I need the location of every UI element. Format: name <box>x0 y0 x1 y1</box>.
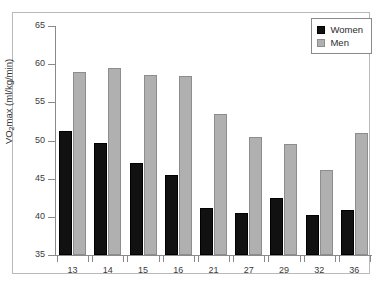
x-axis-line <box>55 255 372 256</box>
y-tick-label-65: 65 <box>5 21 45 30</box>
y-tick-45 <box>48 179 55 180</box>
x-tick-right-21 <box>229 256 230 262</box>
x-tick-left-29 <box>268 256 269 262</box>
x-tick-label-16: 16 <box>163 266 193 275</box>
legend-label-men: Men <box>330 38 348 48</box>
x-tick-left-21 <box>198 256 199 262</box>
bar-women-13 <box>59 131 72 255</box>
bar-women-15 <box>130 163 143 255</box>
bar-women-14 <box>94 143 107 255</box>
x-tick-label-21: 21 <box>199 266 229 275</box>
x-tick-right-36 <box>370 256 371 262</box>
bar-men-16 <box>179 76 192 255</box>
x-tick-left-32 <box>304 256 305 262</box>
chart-figure: VO2max (ml/kg/min) 35404550556065 131415… <box>0 0 386 294</box>
x-tick-label-27: 27 <box>234 266 264 275</box>
x-tick-left-14 <box>92 256 93 262</box>
bar-women-27 <box>235 213 248 255</box>
x-tick-right-32 <box>335 256 336 262</box>
y-axis-title-post: max (ml/kg/min) <box>3 59 14 127</box>
bar-women-29 <box>270 198 283 255</box>
y-tick-55 <box>48 102 55 103</box>
y-tick-65 <box>48 26 55 27</box>
x-tick-right-15 <box>159 256 160 262</box>
bar-women-36 <box>341 210 354 255</box>
bar-men-32 <box>320 170 333 255</box>
y-tick-label-60: 60 <box>5 59 45 68</box>
x-tick-label-15: 15 <box>128 266 158 275</box>
bar-men-13 <box>73 72 86 255</box>
y-axis-title-subscript: 2 <box>8 126 15 130</box>
y-tick-60 <box>48 64 55 65</box>
bar-women-21 <box>200 208 213 255</box>
legend-label-women: Women <box>330 25 363 35</box>
legend-swatch-women-icon <box>317 26 325 34</box>
x-tick-label-14: 14 <box>93 266 123 275</box>
y-tick-label-45: 45 <box>5 174 45 183</box>
x-tick-left-13 <box>57 256 58 262</box>
y-tick-label-55: 55 <box>5 97 45 106</box>
x-tick-right-13 <box>88 256 89 262</box>
bar-women-32 <box>306 215 319 255</box>
y-tick-label-50: 50 <box>5 136 45 145</box>
x-tick-right-16 <box>194 256 195 262</box>
bar-men-14 <box>108 68 121 255</box>
x-tick-label-13: 13 <box>58 266 88 275</box>
x-tick-left-27 <box>233 256 234 262</box>
chart-legend: Women Men <box>311 18 372 54</box>
bar-men-29 <box>284 144 297 255</box>
bar-men-15 <box>144 75 157 255</box>
bar-women-16 <box>165 175 178 255</box>
y-tick-label-35: 35 <box>5 250 45 259</box>
x-tick-label-29: 29 <box>269 266 299 275</box>
y-tick-40 <box>48 217 55 218</box>
y-tick-50 <box>48 141 55 142</box>
legend-item-men: Men <box>317 36 363 49</box>
y-axis-title: VO2max (ml/kg/min) <box>3 0 14 222</box>
x-tick-right-14 <box>123 256 124 262</box>
legend-item-women: Women <box>317 23 363 36</box>
x-tick-left-36 <box>339 256 340 262</box>
x-tick-left-15 <box>127 256 128 262</box>
x-tick-left-16 <box>163 256 164 262</box>
x-tick-label-36: 36 <box>339 266 369 275</box>
x-tick-right-27 <box>264 256 265 262</box>
bar-men-36 <box>355 133 368 255</box>
x-tick-right-29 <box>300 256 301 262</box>
y-tick-label-40: 40 <box>5 212 45 221</box>
y-tick-35 <box>48 255 55 256</box>
bar-men-27 <box>249 137 262 255</box>
legend-swatch-men-icon <box>317 39 325 47</box>
x-tick-label-32: 32 <box>304 266 334 275</box>
plot-area <box>55 26 372 255</box>
bar-men-21 <box>214 114 227 255</box>
